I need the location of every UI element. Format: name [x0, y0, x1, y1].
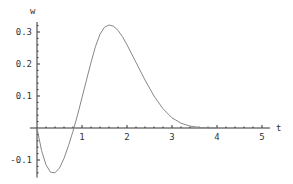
line-chart: 123450.30.20.1-0.1 w t — [0, 0, 293, 184]
x-tick-label: 2 — [124, 132, 129, 142]
y-tick-label: 0.3 — [16, 27, 32, 37]
x-tick-label: 4 — [214, 132, 219, 142]
y-tick-label: 0.2 — [16, 59, 32, 69]
y-tick-label: -0.1 — [10, 155, 32, 165]
y-tick-label: 0.1 — [16, 91, 32, 101]
x-tick-label: 1 — [79, 132, 84, 142]
x-tick-label: 5 — [259, 132, 264, 142]
data-line — [37, 25, 217, 173]
axes: 123450.30.20.1-0.1 — [10, 22, 270, 178]
x-axis-label: t — [276, 123, 281, 133]
y-axis-label: w — [30, 6, 36, 16]
x-tick-label: 3 — [169, 132, 174, 142]
